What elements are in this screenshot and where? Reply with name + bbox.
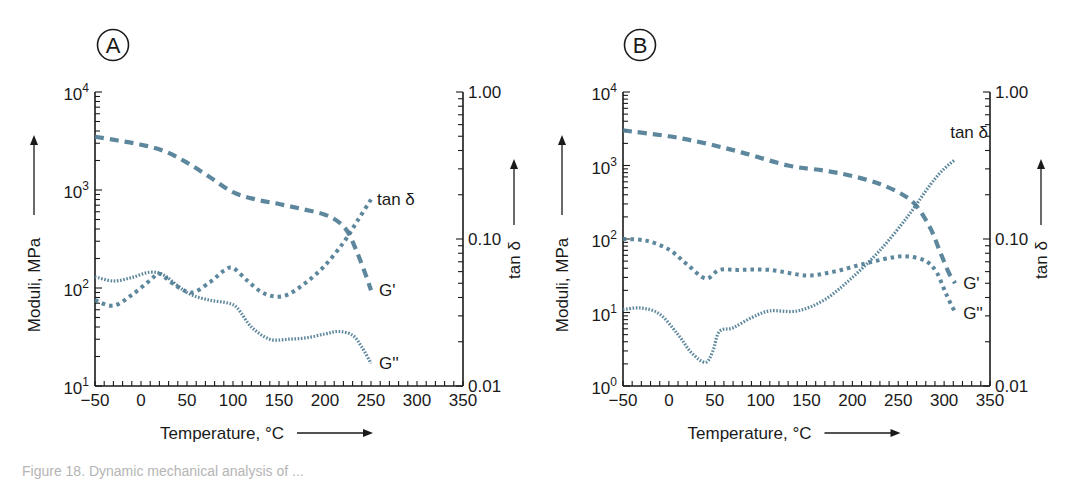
figure-caption: Figure 18. Dynamic mechanical analysis o… (22, 463, 304, 479)
x-tick-label: 100 (746, 391, 774, 410)
y-axis-arrowhead (558, 135, 566, 145)
x-tick-label: 200 (838, 391, 866, 410)
y-tick-label: 104 (63, 81, 89, 104)
x-tick-label: −50 (81, 391, 110, 410)
x-tick-label: 300 (403, 391, 431, 410)
x-tick-label: 150 (265, 391, 293, 410)
curve-gp (95, 137, 371, 291)
y2-tick-label: 0.01 (468, 377, 501, 396)
curve-label: G'' (963, 304, 983, 323)
x-tick-label: 0 (664, 391, 673, 410)
x-tick-label: 150 (792, 391, 820, 410)
x-tick-label: 50 (705, 391, 724, 410)
curve-gp (623, 130, 955, 283)
y2-tick-label: 1.00 (468, 83, 501, 102)
y2-tick-label: 0.01 (995, 377, 1028, 396)
y2-tick-label: 0.10 (995, 230, 1028, 249)
curve-gpp (623, 239, 955, 313)
curve-label: tan δ (950, 123, 988, 142)
x-tick-label: 50 (178, 391, 197, 410)
y-axis-arrowhead (30, 135, 38, 145)
chart-panel-b: B−50050100150200250300350100101102103104… (553, 30, 1051, 444)
curve-label: tan δ (377, 190, 415, 209)
y-tick-label: 102 (63, 277, 89, 300)
x-tick-label: −50 (609, 391, 638, 410)
x-tick-label: 0 (136, 391, 145, 410)
chart-panel-a: A−500501001502002503003501011021031040.0… (25, 30, 524, 444)
y2-tick-label: 0.10 (468, 230, 501, 249)
y2-axis-title: tan δ (505, 241, 524, 279)
curve-label: G'' (379, 354, 399, 373)
curve-tan- (95, 200, 371, 306)
y2-tick-label: 1.00 (995, 83, 1028, 102)
y-tick-label: 101 (591, 302, 617, 325)
y-axis-title: Moduli, MPa (553, 237, 572, 332)
x-tick-label: 250 (884, 391, 912, 410)
y-tick-label: 103 (63, 179, 89, 202)
x-axis-arrowhead (363, 429, 373, 437)
y-tick-label: 102 (591, 228, 617, 251)
x-axis-arrowhead (891, 429, 901, 437)
y2-axis-title: tan δ (1032, 241, 1051, 279)
y2-axis-arrowhead (510, 159, 518, 169)
y-tick-label: 103 (591, 155, 617, 178)
panel-label: A (106, 33, 121, 58)
x-axis-title: Temperature, °C (688, 424, 812, 443)
curve-tan- (623, 160, 955, 363)
x-tick-label: 100 (219, 391, 247, 410)
x-tick-label: 300 (930, 391, 958, 410)
curve-label: G' (963, 274, 979, 293)
curve-label: G' (379, 281, 395, 300)
curve-gpp (95, 272, 371, 363)
x-tick-label: 250 (357, 391, 385, 410)
y-tick-label: 104 (591, 81, 617, 104)
y-axis-title: Moduli, MPa (25, 237, 44, 332)
x-axis-title: Temperature, °C (160, 424, 284, 443)
y2-axis-arrowhead (1037, 159, 1045, 169)
panel-label: B (633, 33, 648, 58)
x-tick-label: 200 (311, 391, 339, 410)
